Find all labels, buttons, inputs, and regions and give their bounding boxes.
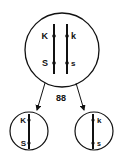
figure-number: 88 bbox=[56, 93, 66, 103]
allele-label-K: K bbox=[42, 31, 49, 41]
allele-label-k: k bbox=[97, 116, 102, 125]
parent-cell: K S k s bbox=[25, 13, 99, 87]
allele-label-S: S bbox=[21, 139, 27, 148]
daughter-cell-right: k s bbox=[75, 112, 113, 150]
allele-label-s: s bbox=[71, 59, 76, 68]
daughter-cell-left: K S bbox=[10, 112, 48, 150]
chromosome-left bbox=[52, 24, 56, 74]
arrow-right bbox=[76, 83, 84, 110]
allele-label-S: S bbox=[42, 58, 48, 68]
allele-label-K: K bbox=[20, 116, 26, 125]
allele-label-k: k bbox=[71, 31, 77, 41]
chromosome-right bbox=[65, 24, 69, 74]
arrow-left bbox=[37, 83, 45, 110]
meiosis-diagram: K S k s 88 K S k s bbox=[0, 0, 119, 160]
allele-label-s: s bbox=[97, 140, 101, 147]
